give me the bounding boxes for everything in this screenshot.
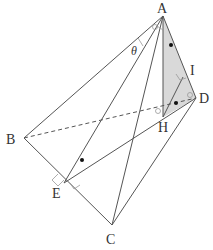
angle-arc-H (156, 109, 161, 114)
angle-dot-A (169, 43, 173, 47)
edge-AC (112, 16, 163, 225)
segment-ED (64, 98, 196, 183)
right-angle-mark-E2 (70, 183, 80, 189)
angle-dot-E (80, 158, 84, 162)
edge-AB (24, 16, 163, 138)
edge-BD-hidden (24, 98, 196, 138)
label-theta: θ (131, 44, 137, 58)
edge-CD (112, 98, 196, 225)
label-E: E (52, 186, 61, 201)
label-B: B (6, 132, 15, 147)
geometry-diagram: A B C D E H I θ (0, 0, 213, 250)
theta-tick (138, 38, 143, 46)
diagram-canvas: A B C D E H I θ (0, 0, 213, 250)
angle-dot-H (174, 101, 178, 105)
segment-AE (64, 16, 163, 183)
label-H: H (158, 120, 168, 135)
edge-BC (24, 138, 112, 225)
label-D: D (199, 91, 209, 106)
label-A: A (157, 1, 168, 16)
label-I: I (190, 63, 195, 78)
label-C: C (106, 232, 115, 247)
